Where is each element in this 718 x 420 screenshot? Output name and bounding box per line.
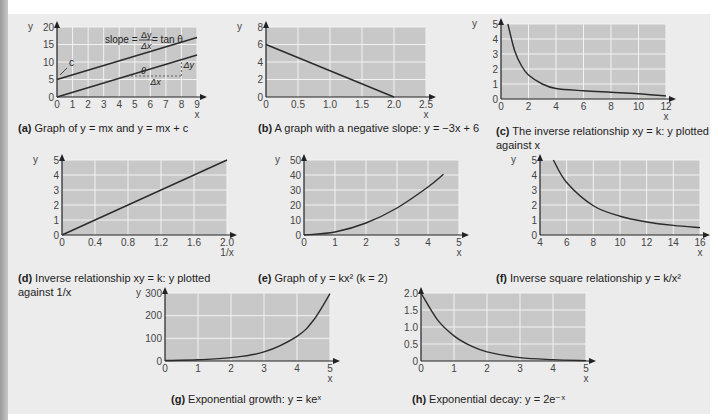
svg-text:y: y	[237, 21, 242, 32]
svg-text:0: 0	[492, 94, 498, 105]
svg-text:x: x	[424, 109, 429, 120]
svg-text:y: y	[511, 154, 516, 165]
chart-a: 012345678905101520xyslope =ΔyΔx= tan θcθ…	[28, 21, 207, 120]
caption-e: (e) Graph of y = kx² (k = 2)	[258, 271, 388, 285]
svg-text:1.5: 1.5	[404, 305, 418, 316]
svg-text:0: 0	[257, 92, 263, 103]
svg-text:Δx: Δx	[140, 41, 152, 51]
svg-text:1.5: 1.5	[355, 99, 369, 110]
svg-text:0.8: 0.8	[121, 237, 135, 248]
svg-text:0: 0	[59, 237, 65, 248]
svg-text:8: 8	[257, 22, 263, 33]
svg-text:1.6: 1.6	[187, 237, 201, 248]
svg-text:3: 3	[261, 363, 267, 374]
chart-d: 00.40.81.21.62.00123451/xy	[33, 154, 237, 258]
svg-text:x: x	[664, 111, 669, 122]
svg-text:2.0: 2.0	[404, 288, 418, 299]
svg-text:12: 12	[641, 237, 653, 248]
svg-text:1: 1	[332, 237, 338, 248]
svg-text:Δy: Δy	[141, 30, 152, 40]
svg-text:10: 10	[633, 101, 645, 112]
svg-text:Δx: Δx	[149, 77, 161, 87]
svg-text:0: 0	[418, 363, 424, 374]
svg-text:0: 0	[53, 230, 59, 241]
svg-text:6: 6	[148, 99, 154, 110]
svg-text:14: 14	[668, 237, 680, 248]
svg-text:3: 3	[492, 49, 498, 60]
caption-f: (f) Inverse square relationship y = k/x²	[496, 271, 681, 285]
svg-text:7: 7	[163, 99, 169, 110]
svg-text:c: c	[69, 57, 74, 68]
svg-text:6: 6	[257, 39, 263, 50]
chart-e: 01234501020304050xy	[275, 154, 469, 258]
svg-text:= tan θ: = tan θ	[152, 34, 183, 45]
svg-text:2: 2	[85, 99, 91, 110]
chart-b: 00.51.01.52.02.502468xy	[237, 21, 436, 120]
caption-h: (h) Exponential decay: y = 2e⁻ˣ	[412, 392, 565, 406]
svg-text:0: 0	[48, 92, 54, 103]
svg-text:10: 10	[290, 215, 302, 226]
svg-text:5: 5	[48, 74, 54, 85]
svg-text:x: x	[328, 373, 333, 384]
svg-text:10: 10	[43, 57, 55, 68]
svg-text:2: 2	[363, 237, 369, 248]
svg-text:30: 30	[290, 185, 302, 196]
svg-text:100: 100	[145, 333, 162, 344]
svg-text:4: 4	[116, 99, 122, 110]
svg-text:1: 1	[70, 99, 76, 110]
svg-text:0: 0	[263, 99, 269, 110]
svg-text:2: 2	[531, 200, 537, 211]
svg-text:2: 2	[492, 64, 498, 75]
svg-text:x: x	[457, 247, 462, 258]
svg-text:15: 15	[43, 39, 55, 50]
svg-text:4: 4	[425, 237, 431, 248]
caption-c: (c) The inverse relationship xy = k: y p…	[496, 124, 709, 152]
chart-h: 01234500.51.01.52.0x	[404, 287, 596, 384]
charts-canvas: 012345678905101520xyslope =ΔyΔx= tan θcθ…	[0, 0, 718, 420]
caption-a: (a) Graph of y = mx and y = mx + c	[18, 121, 188, 135]
svg-text:1: 1	[451, 363, 457, 374]
svg-text:200: 200	[145, 310, 162, 321]
svg-text:8: 8	[608, 101, 614, 112]
svg-text:y: y	[28, 21, 33, 32]
svg-text:y: y	[33, 154, 38, 165]
svg-text:x: x	[584, 373, 589, 384]
svg-text:2.0: 2.0	[387, 99, 401, 110]
svg-text:5: 5	[132, 99, 138, 110]
svg-text:20: 20	[43, 22, 55, 33]
svg-text:1: 1	[195, 363, 201, 374]
svg-text:3: 3	[517, 363, 523, 374]
svg-text:8: 8	[591, 237, 597, 248]
svg-text:6: 6	[581, 101, 587, 112]
svg-text:4: 4	[492, 34, 498, 45]
svg-text:1.0: 1.0	[323, 99, 337, 110]
svg-text:8: 8	[179, 99, 185, 110]
svg-text:θ: θ	[141, 66, 146, 76]
svg-text:3: 3	[53, 185, 59, 196]
chart-c: 024681012012345xy	[472, 18, 676, 122]
svg-text:20: 20	[290, 200, 302, 211]
svg-text:2: 2	[526, 101, 532, 112]
svg-text:y: y	[472, 18, 477, 29]
svg-text:4: 4	[294, 363, 300, 374]
svg-text:0: 0	[156, 356, 162, 367]
svg-text:3: 3	[531, 185, 537, 196]
svg-text:4: 4	[531, 170, 537, 181]
svg-text:50: 50	[290, 155, 302, 166]
svg-text:0.5: 0.5	[404, 339, 418, 350]
svg-text:0: 0	[498, 101, 504, 112]
svg-text:slope =: slope =	[105, 34, 138, 45]
svg-text:x: x	[698, 247, 703, 258]
svg-text:2: 2	[53, 200, 59, 211]
svg-text:5: 5	[492, 19, 498, 30]
svg-text:4: 4	[53, 170, 59, 181]
svg-text:4: 4	[550, 363, 556, 374]
svg-text:0.5: 0.5	[291, 99, 305, 110]
svg-text:1: 1	[492, 79, 498, 90]
svg-text:3: 3	[101, 99, 107, 110]
svg-text:10: 10	[614, 237, 626, 248]
chart-g: 0123450100200300xy	[136, 287, 340, 384]
svg-text:1/x: 1/x	[220, 247, 233, 258]
svg-text:2: 2	[257, 74, 263, 85]
svg-text:6: 6	[564, 237, 570, 248]
